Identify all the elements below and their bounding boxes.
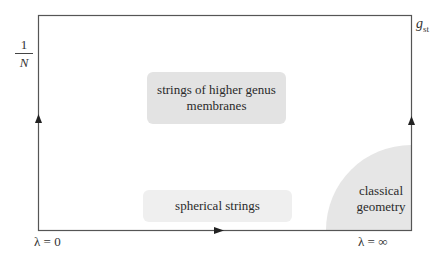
y-axis-left-label: 1 N [15, 38, 33, 70]
higher-genus-line2: membranes [157, 98, 276, 114]
spherical-strings-region: spherical strings [143, 190, 292, 222]
y-left-numerator: 1 [15, 38, 33, 52]
higher-genus-region: strings of higher genus membranes [147, 72, 286, 124]
arrow-up-left-icon [35, 114, 42, 123]
classical-geometry-label: classical geometry [352, 183, 410, 215]
gst-base: g [416, 16, 423, 31]
arrow-up-right-icon [408, 116, 415, 125]
x-axis-left-label: λ = 0 [34, 234, 61, 249]
arrow-right-bottom-icon [214, 227, 224, 234]
x-axis-right-label: λ = ∞ [358, 234, 387, 249]
gst-sub: st [423, 24, 429, 34]
higher-genus-line1: strings of higher genus [157, 82, 276, 98]
fraction-bar [15, 53, 33, 54]
spherical-strings-label: spherical strings [175, 198, 260, 214]
classical-line2: geometry [352, 199, 410, 215]
y-axis-right-label: gst [416, 16, 429, 34]
y-left-denominator: N [15, 55, 33, 70]
classical-line1: classical [352, 183, 410, 199]
